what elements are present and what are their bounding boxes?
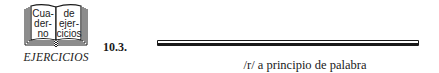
exercise-number: 10.3. (103, 40, 127, 55)
book-right-line-3: cicios (56, 28, 81, 39)
exercise-title: /r/ a principio de palabra (157, 58, 439, 73)
book-left-line-3: no (37, 28, 49, 39)
section-label: EJERCICIOS (21, 51, 91, 63)
book-icon: Cua- der- no de ejer- cicios (21, 3, 91, 48)
exercise-title-bar (157, 40, 419, 46)
